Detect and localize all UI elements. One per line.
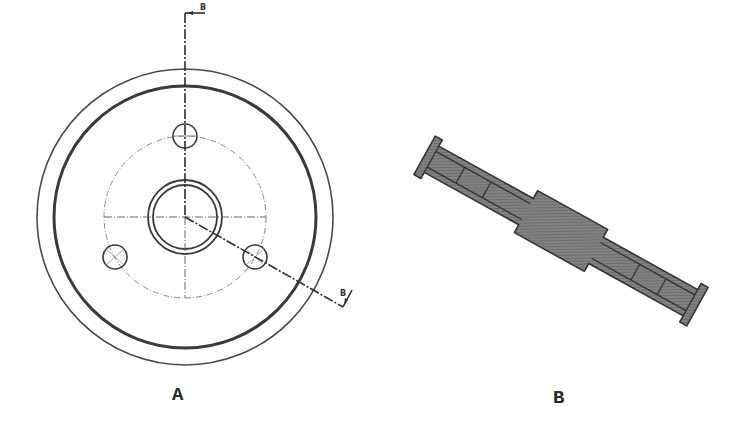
view-label-b: B [553,387,564,409]
bolt-hole-lower-left [103,245,127,269]
arrowhead-icon [187,11,193,15]
view-label-a: A [172,384,184,406]
cutting-plane-line [185,11,352,307]
technical-drawing: B B A B [0,0,734,427]
cutting-line-angled [185,217,343,307]
view-b-section [413,134,709,327]
view-a-front: B B A [37,3,352,406]
cutting-label-bottom: B [340,289,346,298]
cutting-label-top: B [200,3,206,12]
